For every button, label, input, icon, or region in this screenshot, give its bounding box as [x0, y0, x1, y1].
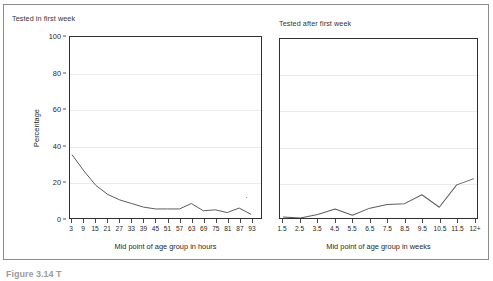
x-axis-tick-mark	[317, 219, 318, 223]
x-axis-title-left: Mid point of age group in hours	[69, 242, 262, 251]
x-axis-tick-mark	[180, 219, 181, 223]
x-axis-tick-mark	[95, 219, 96, 223]
x-axis-tick-10.5: 10.5	[433, 225, 446, 232]
x-axis-tick-3.5: 3.5	[312, 225, 321, 232]
x-axis-tick-9: 9	[81, 225, 85, 232]
x-axis-tick-mark	[335, 219, 336, 223]
x-axis-tick-75: 75	[212, 225, 219, 232]
x-axis-tick-mark	[405, 219, 406, 223]
stray-mark	[246, 197, 247, 198]
x-axis-tick-3: 3	[69, 225, 73, 232]
x-axis-tick-11.5: 11.5	[451, 225, 463, 232]
y-axis-tick-40: 40	[53, 141, 61, 150]
x-axis-tick-mark	[282, 219, 283, 223]
x-axis-tick-mark	[228, 219, 229, 223]
y-axis-tick-20: 20	[53, 178, 61, 187]
chart-panel-right: Tested after first week 1.52.53.54.55.56…	[266, 5, 490, 259]
x-axis-tick-27: 27	[116, 225, 123, 232]
series-line-right	[280, 39, 477, 218]
y-axis-tick-mark	[63, 145, 66, 146]
x-axis-title-right: Mid point of age group in weeks	[279, 242, 478, 251]
x-axis-tick-12+: 12+	[469, 225, 480, 232]
x-axis-tick-mark	[192, 219, 193, 223]
series-line-left	[70, 37, 261, 218]
x-axis-tick-57: 57	[176, 225, 183, 232]
x-axis-tick-2.5: 2.5	[295, 225, 304, 232]
y-axis-tick-mark	[63, 219, 66, 220]
x-axis-tick-mark	[119, 219, 120, 223]
y-axis-tick-80: 80	[53, 68, 61, 77]
x-axis-tick-mark	[370, 219, 371, 223]
x-axis-tick-39: 39	[140, 225, 147, 232]
x-axis-tick-1.5: 1.5	[277, 225, 286, 232]
x-axis-tick-5.5: 5.5	[348, 225, 357, 232]
x-axis-tick-69: 69	[200, 225, 207, 232]
x-axis-tick-mark	[83, 219, 84, 223]
x-axis-tick-mark	[155, 219, 156, 223]
x-axis-tick-mark	[252, 219, 253, 223]
x-axis-tick-7.5: 7.5	[383, 225, 392, 232]
y-axis-tick-mark	[63, 72, 66, 73]
x-axis-tick-93: 93	[248, 225, 255, 232]
x-axis-tick-33: 33	[128, 225, 135, 232]
x-axis-tick-mark	[240, 219, 241, 223]
x-axis-tick-45: 45	[152, 225, 159, 232]
x-axis-tick-4.5: 4.5	[330, 225, 339, 232]
x-axis-tick-mark	[352, 219, 353, 223]
x-axis-tick-6.5: 6.5	[365, 225, 374, 232]
figure-caption: Figure 3.14 T	[6, 269, 62, 281]
y-axis-tick-60: 60	[53, 105, 61, 114]
x-axis-tick-mark	[422, 219, 423, 223]
y-axis-tick-0: 0	[57, 215, 61, 224]
x-axis-tick-51: 51	[164, 225, 171, 232]
x-axis-tick-mark	[143, 219, 144, 223]
x-axis-tick-21: 21	[104, 225, 111, 232]
panel-left-title: Tested in first week	[12, 14, 75, 23]
x-axis-tick-mark	[457, 219, 458, 223]
x-axis-tick-mark	[71, 219, 72, 223]
x-axis-tick-mark	[387, 219, 388, 223]
x-axis-tick-mark	[440, 219, 441, 223]
y-axis-tick-100: 100	[49, 32, 61, 41]
y-axis-tick-mark	[63, 109, 66, 110]
x-axis-tick-mark	[300, 219, 301, 223]
figure-frame: Tested in first week Percentage 02040608…	[3, 4, 489, 260]
x-axis-tick-mark	[204, 219, 205, 223]
x-axis-tick-87: 87	[236, 225, 243, 232]
y-axis-tick-mark	[63, 36, 66, 37]
x-axis-tick-mark	[168, 219, 169, 223]
chart-panel-left: Tested in first week Percentage 02040608…	[4, 5, 266, 259]
x-axis-tick-mark	[475, 219, 476, 223]
x-axis-tick-mark	[216, 219, 217, 223]
x-axis-tick-63: 63	[188, 225, 195, 232]
y-axis-tick-labels: 020406080100	[34, 36, 66, 219]
plot-area-right	[279, 38, 478, 219]
panel-right-title: Tested after first week	[279, 19, 351, 28]
x-axis-tick-81: 81	[224, 225, 231, 232]
x-axis-tick-9.5: 9.5	[418, 225, 427, 232]
x-axis-tick-15: 15	[91, 225, 98, 232]
x-axis-tick-mark	[107, 219, 108, 223]
plot-area-left	[69, 36, 262, 219]
y-axis-tick-mark	[63, 182, 66, 183]
x-axis-tick-8.5: 8.5	[400, 225, 409, 232]
x-axis-tick-mark	[131, 219, 132, 223]
